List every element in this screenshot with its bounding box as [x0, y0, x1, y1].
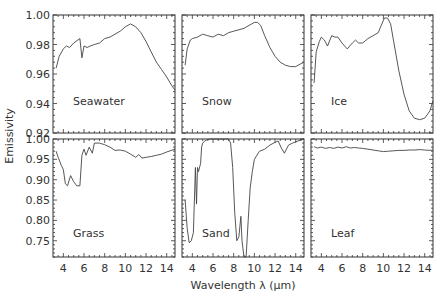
panel-leaf: 468101214Leaf [311, 139, 433, 275]
x-tick-label: 12 [268, 262, 282, 275]
panel-frame [53, 15, 175, 133]
panel-label: Snow [202, 95, 232, 108]
y-tick-label: 0.98 [26, 39, 51, 52]
panel-snow: Snow [182, 15, 304, 133]
x-tick-label: 6 [339, 262, 346, 275]
x-tick-label: 4 [60, 262, 67, 275]
x-tick-label: 4 [189, 262, 196, 275]
panel-seawater: 0.920.940.960.981.00Seawater [26, 9, 176, 140]
emissivity-curve-snow [185, 22, 304, 66]
y-tick-label: 0.90 [26, 174, 51, 187]
panel-frame [182, 139, 304, 257]
y-tick-label: 0.75 [26, 235, 51, 248]
y-tick-label: 0.80 [26, 214, 51, 227]
y-axis-title: Emissivity [3, 108, 16, 164]
emissivity-curve-grass [56, 143, 175, 186]
panel-grid: 0.920.940.960.981.00SeawaterSnowIce0.750… [26, 9, 434, 275]
x-tick-label: 4 [318, 262, 325, 275]
panel-sand: 468101214Sand [182, 139, 304, 275]
panel-label: Leaf [331, 227, 355, 240]
panel-frame [53, 139, 175, 257]
y-tick-label: 0.96 [26, 68, 51, 81]
emissivity-curve-seawater [56, 24, 175, 90]
panel-label: Sand [202, 227, 230, 240]
y-tick-label: 1.00 [26, 133, 51, 146]
y-tick-label: 0.85 [26, 194, 51, 207]
x-tick-label: 12 [139, 262, 153, 275]
x-tick-label: 10 [118, 262, 132, 275]
x-axis-title: Wavelength λ (μm) [190, 279, 295, 292]
y-tick-label: 0.95 [26, 153, 51, 166]
panel-frame [182, 15, 304, 133]
emissivity-chart: 0.920.940.960.981.00SeawaterSnowIce0.750… [0, 0, 446, 299]
x-tick-label: 10 [376, 262, 390, 275]
emissivity-curve-leaf [314, 147, 433, 152]
x-tick-label: 10 [247, 262, 261, 275]
panel-ice: Ice [311, 15, 433, 133]
x-tick-label: 8 [230, 262, 237, 275]
x-tick-label: 6 [210, 262, 217, 275]
panel-frame [311, 139, 433, 257]
panel-label: Grass [73, 227, 105, 240]
x-tick-label: 12 [397, 262, 411, 275]
x-tick-label: 8 [359, 262, 366, 275]
x-tick-label: 8 [101, 262, 108, 275]
y-tick-label: 0.94 [26, 98, 51, 111]
panel-grass: 0.750.800.850.900.951.00468101214Grass [26, 133, 176, 275]
x-tick-label: 6 [81, 262, 88, 275]
x-tick-label: 14 [289, 262, 303, 275]
panel-label: Seawater [73, 95, 125, 108]
panel-label: Ice [331, 95, 347, 108]
x-tick-label: 14 [160, 262, 174, 275]
x-tick-label: 14 [418, 262, 432, 275]
y-tick-label: 1.00 [26, 9, 51, 22]
panel-frame [311, 15, 433, 133]
